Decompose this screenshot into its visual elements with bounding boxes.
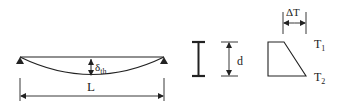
beam-deflected-curve — [20, 57, 164, 75]
t1-label: T1 — [314, 37, 325, 53]
t2-label: T2 — [314, 70, 325, 86]
thermal-bowing-diagram: δth L d ΔT T1 T2 — [0, 0, 343, 109]
temperature-profile-shape — [268, 42, 306, 76]
temperature-gradient-diagram: ΔT T1 T2 — [268, 6, 325, 86]
beam-diagram: δth L — [16, 57, 168, 101]
delta-t-label: ΔT — [286, 6, 300, 18]
depth-label: d — [237, 54, 243, 68]
span-label: L — [87, 79, 95, 94]
depth-dimension: d — [221, 42, 243, 76]
deflection-label: δth — [95, 61, 106, 76]
i-section-icon — [192, 42, 205, 76]
